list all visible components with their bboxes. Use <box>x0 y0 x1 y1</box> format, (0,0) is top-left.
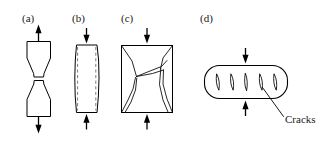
panel-label-b: (b) <box>72 12 85 25</box>
arrow-up-icon <box>35 25 41 34</box>
panel-a-group: (a) <box>22 12 51 134</box>
panel-d-bottom-load-arrow <box>242 101 248 117</box>
panel-b-group: (b) <box>72 12 99 130</box>
figure-canvas: (a) (b) <box>0 0 326 153</box>
panel-c-bottom-load-arrow <box>144 114 150 130</box>
panel-a-top-load-arrow <box>35 25 41 42</box>
panel-label-c: (c) <box>121 12 134 25</box>
panel-b-bottom-load-arrow <box>83 114 89 130</box>
panel-a-lower-specimen <box>27 81 51 117</box>
arrow-up-icon <box>83 114 89 123</box>
panel-a-bottom-load-arrow <box>35 117 41 134</box>
arrow-up-icon <box>144 114 150 123</box>
arrow-down-icon <box>144 35 150 44</box>
panel-b-top-load-arrow <box>83 28 89 44</box>
arrow-down-icon <box>83 35 89 44</box>
arrow-down-icon <box>35 125 41 134</box>
cracks-annotation-label: Cracks <box>285 113 316 125</box>
panel-label-a: (a) <box>22 12 35 25</box>
panel-label-d: (d) <box>200 12 213 25</box>
panel-d-top-load-arrow <box>242 48 248 64</box>
panel-c-top-load-arrow <box>144 28 150 44</box>
panel-c-group: (c) <box>121 12 173 130</box>
panel-d-group: (d) Cracks <box>200 12 316 125</box>
arrow-up-icon <box>242 101 248 110</box>
panel-a-upper-specimen <box>27 42 51 78</box>
failure-modes-figure: (a) (b) <box>0 0 326 153</box>
arrow-down-icon <box>242 55 248 64</box>
